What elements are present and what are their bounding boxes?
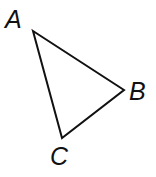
vertex-label-c: C	[50, 142, 69, 170]
triangle-diagram: A B C	[0, 0, 156, 177]
vertex-label-a: A	[3, 5, 22, 33]
vertex-label-b: B	[129, 77, 146, 105]
triangle-abc	[33, 31, 124, 138]
